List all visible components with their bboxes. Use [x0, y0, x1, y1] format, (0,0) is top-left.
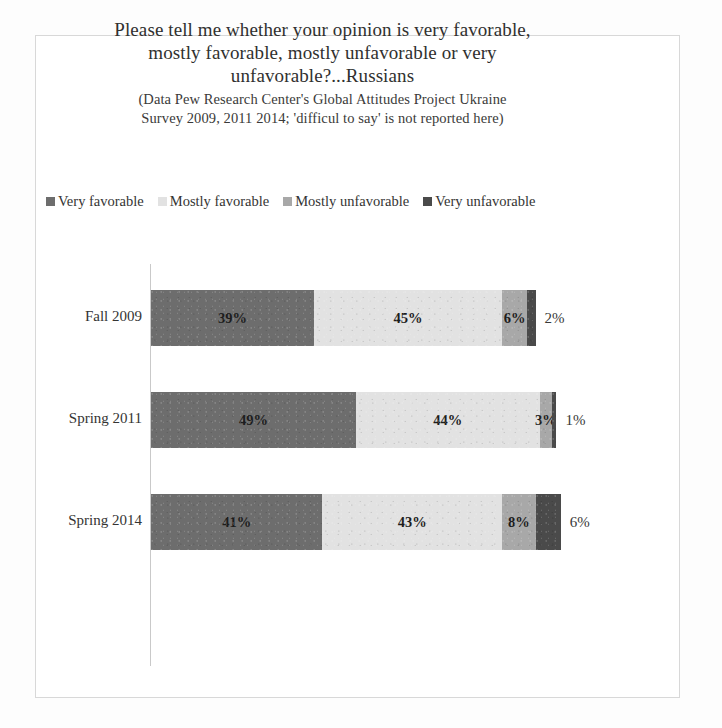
chart-title-line-2: mostly favorable, mostly unfavorable or …: [35, 41, 610, 64]
legend-item-mostly-unfavorable[interactable]: Mostly unfavorable: [283, 193, 409, 209]
legend-item-very-favorable[interactable]: Very favorable: [46, 193, 144, 209]
chart-page: Please tell me whether your opinion is v…: [0, 0, 722, 728]
legend-label-mostly-favorable: Mostly favorable: [170, 193, 269, 209]
chart-subtitle-line-1: (Data Pew Research Center's Global Attit…: [35, 90, 610, 109]
legend-label-very-favorable: Very favorable: [58, 193, 144, 209]
legend-label-mostly-unfavorable: Mostly unfavorable: [295, 193, 409, 209]
page-frame-border: [35, 35, 680, 698]
chart-subtitle-block: (Data Pew Research Center's Global Attit…: [35, 90, 610, 128]
chart-title-line-3: unfavorable?...Russians: [35, 64, 610, 87]
chart-title-block: Please tell me whether your opinion is v…: [35, 18, 610, 128]
chart-legend: Very favorable Mostly favorable Mostly u…: [46, 193, 646, 209]
legend-swatch-icon-mostly-favorable: [158, 197, 167, 206]
legend-item-mostly-favorable[interactable]: Mostly favorable: [158, 193, 269, 209]
chart-subtitle-line-2: Survey 2009, 2011 2014; 'difficul to say…: [35, 109, 610, 128]
chart-title-line-1: Please tell me whether your opinion is v…: [35, 18, 610, 41]
legend-swatch-icon-mostly-unfavorable: [283, 197, 292, 206]
legend-item-very-unfavorable[interactable]: Very unfavorable: [423, 193, 535, 209]
legend-swatch-icon-very-favorable: [46, 197, 55, 206]
legend-swatch-icon-very-unfavorable: [423, 197, 432, 206]
legend-label-very-unfavorable: Very unfavorable: [435, 193, 535, 209]
